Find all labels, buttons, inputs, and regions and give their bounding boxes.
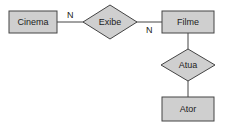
entity-ator: Ator [162, 97, 214, 121]
relationship-atua: Atua [161, 49, 215, 81]
er-diagram: Cinema Exibe Filme Atua Ator N N [0, 0, 225, 128]
entity-ator-label: Ator [180, 104, 197, 114]
relationship-exibe: Exibe [83, 5, 137, 39]
entity-cinema: Cinema [9, 11, 57, 33]
relationship-exibe-label: Exibe [99, 17, 122, 27]
cardinality-cinema-exibe: N [67, 10, 74, 20]
entity-filme-label: Filme [177, 17, 199, 27]
relationship-atua-label: Atua [179, 60, 198, 70]
entity-filme: Filme [162, 11, 214, 33]
entity-cinema-label: Cinema [17, 17, 48, 27]
cardinality-filme-exibe: N [146, 25, 153, 35]
